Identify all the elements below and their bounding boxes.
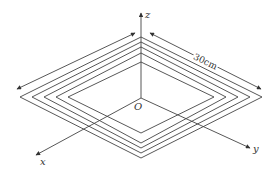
coil-diagram: z O x y 30cm: [0, 0, 269, 175]
diagram-graphics: [0, 0, 269, 175]
x-axis: [36, 98, 141, 155]
y-axis-label: y: [253, 144, 259, 154]
z-axis-label: z: [145, 10, 150, 20]
origin-label: O: [134, 102, 142, 112]
axes: [36, 13, 250, 155]
x-axis-label: x: [40, 157, 46, 167]
